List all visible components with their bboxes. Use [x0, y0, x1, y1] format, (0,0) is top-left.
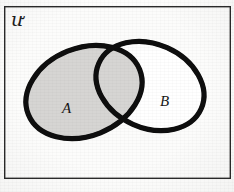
venn-diagram-canvas	[0, 0, 234, 192]
universal-set-symbol: ư	[11, 10, 23, 29]
set-label-b: B	[160, 94, 169, 109]
venn-diagram-figure: ư A B	[0, 0, 234, 192]
set-label-a: A	[62, 101, 71, 116]
